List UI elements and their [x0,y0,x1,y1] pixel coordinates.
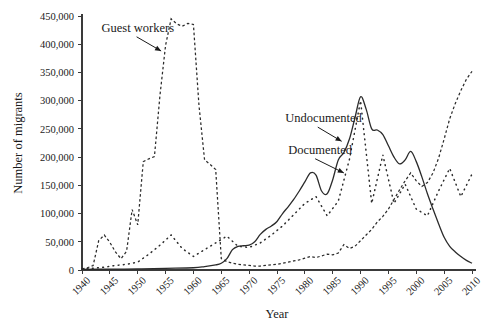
y-tick-label: 350,000 [40,67,74,78]
y-tick-label: 150,000 [40,180,74,191]
x-tick-label: 1960 [181,275,204,298]
series-undocumented [82,101,472,269]
x-tick-label: 1980 [293,275,316,298]
y-tick-label: 0 [69,265,74,276]
y-tick-label: 250,000 [40,124,74,135]
y-tick-label: 200,000 [40,152,74,163]
y-tick-label: 300,000 [40,95,74,106]
y-tick-label: 450,000 [40,11,74,22]
annotation-label-documented: Documented [288,143,353,157]
x-tick-label: 1970 [237,275,260,298]
series-annotations: Guest workersUndocumentedDocumented [102,21,363,173]
x-tick-label: 2000 [404,275,427,298]
x-axis-ticks [82,270,472,274]
x-tick-label: 2010 [460,275,483,298]
y-tick-label: 50,000 [45,237,74,248]
y-tick-label: 400,000 [40,39,74,50]
x-tick-label: 1965 [209,275,232,298]
annotation-label-undocumented: Undocumented [285,111,362,125]
chart-figure: 050,000100,000150,000200,000250,000300,0… [0,0,493,327]
data-series-group [82,19,472,270]
migration-line-chart: 050,000100,000150,000200,000250,000300,0… [0,0,493,327]
x-tick-label: 1940 [70,275,93,298]
x-tick-label: 1950 [126,275,149,298]
series-documented [82,97,472,270]
series-guest-workers [82,19,472,269]
x-axis-title: Year [265,307,289,321]
x-tick-label: 1975 [265,275,288,298]
x-tick-label: 2005 [432,275,455,298]
x-tick-label: 1945 [98,275,121,298]
x-tick-label: 1985 [321,275,344,298]
y-tick-label: 100,000 [40,208,74,219]
y-axis-title: Number of migrants [11,92,25,194]
x-tick-label: 1955 [153,275,176,298]
annotation-arrowhead [335,136,342,141]
annotation-label-guest-workers: Guest workers [102,21,175,35]
x-tick-labels: 1940194519501955196019651970197519801985… [70,275,483,298]
y-tick-labels: 050,000100,000150,000200,000250,000300,0… [40,11,74,276]
x-tick-label: 1990 [348,275,371,298]
y-axis-ticks [78,16,82,270]
x-tick-label: 1995 [376,275,399,298]
